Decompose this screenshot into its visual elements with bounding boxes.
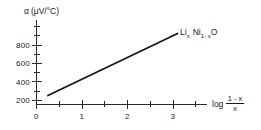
series-formula-annotation: LixNi1- xO <box>180 27 217 37</box>
x-axis-title-fraction: 1 - x x <box>226 95 245 113</box>
data-series-line <box>48 33 178 95</box>
y-axis-title: α(μV/°C) <box>24 6 59 16</box>
y-axis-title-symbol: α <box>24 6 29 16</box>
y-tick-label-200: 200 <box>10 96 30 105</box>
seebeck-coefficient-chart: 800 600 400 200 0 1 2 3 α(μV/°C) log 1 -… <box>0 0 261 130</box>
x-axis-title-prefix: log <box>212 99 223 109</box>
x-axis-title: log 1 - x x <box>212 96 244 114</box>
x-tick-label-1: 1 <box>80 112 85 121</box>
y-tick-label-800: 800 <box>10 41 30 50</box>
formula-element-li: Li <box>180 27 187 37</box>
fraction-denominator: x <box>226 105 245 113</box>
x-tick-label-0: 0 <box>34 112 39 121</box>
fraction-numerator: 1 - x <box>226 95 245 103</box>
x-tick-label-3: 3 <box>171 112 176 121</box>
y-tick-label-400: 400 <box>10 78 30 87</box>
y-axis-title-units: (μV/°C) <box>31 6 59 16</box>
x-tick-label-2: 2 <box>125 112 130 121</box>
formula-subscript-1-minus-x: 1- x <box>201 33 211 39</box>
formula-subscript-x: x <box>187 33 190 39</box>
formula-element-o: O <box>211 27 218 37</box>
y-tick-label-600: 600 <box>10 59 30 68</box>
formula-element-ni: Ni <box>193 27 201 37</box>
